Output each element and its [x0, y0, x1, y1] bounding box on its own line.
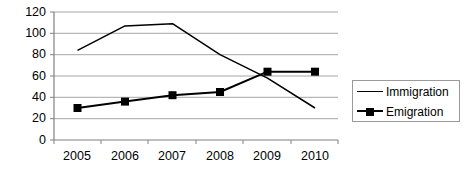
- y-tick-label-0: 0: [20, 134, 46, 147]
- y-tick-label-100: 100: [20, 27, 46, 40]
- gridlines: [54, 12, 338, 119]
- series-line-immigration: [78, 24, 316, 108]
- x-tick-label-2007: 2007: [152, 150, 192, 163]
- x-tick-label-2009: 2009: [247, 150, 287, 163]
- chart-legend: Immigration Emigration: [352, 80, 460, 122]
- legend-label-emigration: Emigration: [386, 105, 443, 119]
- x-tick-label-2006: 2006: [105, 150, 145, 163]
- y-tick-label-60: 60: [20, 70, 46, 83]
- y-tick-label-120: 120: [20, 6, 46, 19]
- x-axis-ticks: [54, 140, 338, 144]
- line-chart: 120 100 80 60 40 20 0 2005 2006 2007 200…: [0, 0, 466, 178]
- x-tick-label-2010: 2010: [295, 150, 335, 163]
- legend-swatch-emigration: [357, 105, 383, 119]
- y-tick-label-20: 20: [20, 112, 46, 125]
- series-line-emigration: [78, 72, 316, 108]
- x-tick-label-2008: 2008: [200, 150, 240, 163]
- y-tick-label-80: 80: [20, 48, 46, 61]
- legend-item-emigration[interactable]: Emigration: [353, 101, 459, 122]
- legend-swatch-immigration: [357, 85, 383, 99]
- series-markers-emigration: [74, 68, 320, 112]
- legend-item-immigration[interactable]: Immigration: [353, 81, 459, 102]
- x-tick-label-2005: 2005: [57, 150, 97, 163]
- square-marker-icon: [366, 108, 374, 116]
- y-tick-label-40: 40: [20, 91, 46, 104]
- legend-label-immigration: Immigration: [386, 85, 449, 99]
